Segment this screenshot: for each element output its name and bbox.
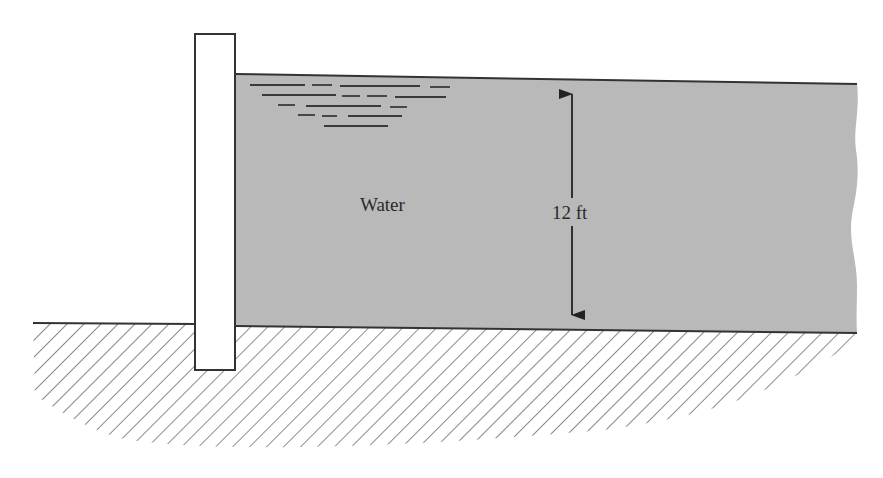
ground-surface-line bbox=[33, 323, 195, 324]
retaining-wall bbox=[195, 34, 235, 370]
retaining-wall-diagram: Water 12 ft bbox=[0, 0, 883, 478]
depth-label: 12 ft bbox=[552, 202, 588, 223]
water-body bbox=[235, 74, 858, 333]
ground-soil bbox=[0, 320, 883, 460]
water-label: Water bbox=[360, 194, 406, 215]
